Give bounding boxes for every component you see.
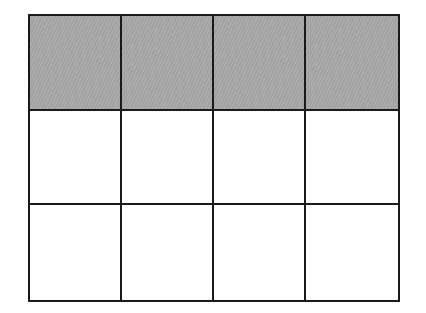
grid-cell-r3c2 xyxy=(122,205,214,300)
grid-cell-r2c1 xyxy=(30,111,122,206)
fraction-grid xyxy=(28,14,400,302)
grid-cell-r3c4 xyxy=(306,205,398,300)
grid-cell-r2c3 xyxy=(214,111,306,206)
grid-cell-r2c4 xyxy=(306,111,398,206)
grid-cell-r1c3-shaded xyxy=(214,16,306,111)
grid-cell-r1c2-shaded xyxy=(122,16,214,111)
grid-cell-r1c1-shaded xyxy=(30,16,122,111)
grid-cell-r1c4-shaded xyxy=(306,16,398,111)
grid-cell-r2c2 xyxy=(122,111,214,206)
grid-cell-r3c3 xyxy=(214,205,306,300)
grid-cell-r3c1 xyxy=(30,205,122,300)
